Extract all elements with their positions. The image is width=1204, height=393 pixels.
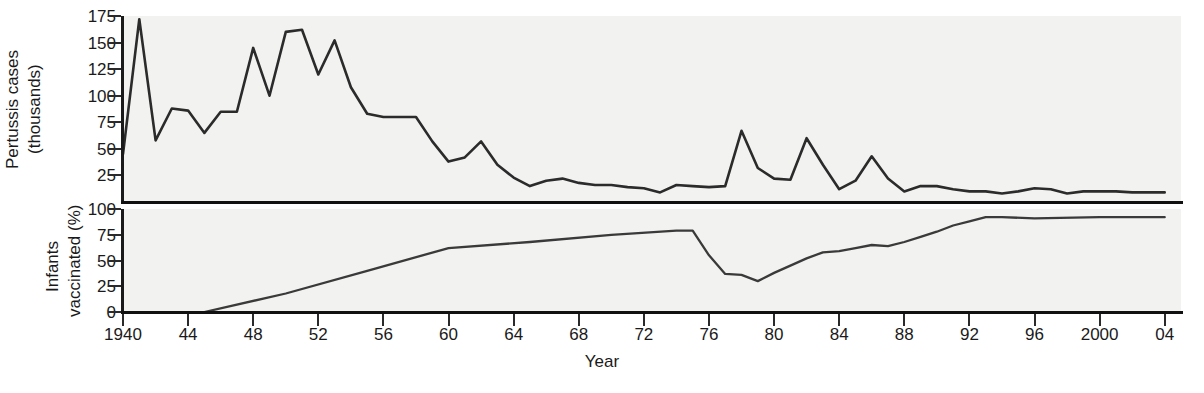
cases-y-tickmark-150	[108, 42, 121, 44]
cases-axis-title-line1: Pertussis cases	[4, 14, 22, 204]
x-tick-label-04: 04	[1155, 326, 1174, 343]
cases-axis-title-line2: (thousands)	[26, 14, 44, 204]
x-tick-label-44: 44	[179, 326, 198, 343]
infants-vaccinated-series-line	[204, 217, 1164, 312]
pertussis-vaccination-figure: Pertussis cases (thousands) Infants vacc…	[0, 0, 1204, 393]
x-tickmark-2000	[1099, 313, 1101, 326]
vaccination-y-tickmark-75	[108, 234, 121, 236]
x-tickmark-60	[448, 313, 450, 326]
cases-y-tick-labels: 175150125100755025	[58, 0, 116, 210]
x-tickmark-44	[187, 313, 189, 326]
x-tick-label-1940: 1940	[104, 326, 142, 343]
x-tickmark-76	[708, 313, 710, 326]
x-tick-label-96: 96	[1025, 326, 1044, 343]
vaccination-y-tickmark-100	[108, 208, 121, 210]
vaccination-y-tickmark-50	[108, 260, 121, 262]
vaccination-y-tickmark-0	[108, 311, 121, 313]
x-tickmark-68	[578, 313, 580, 326]
x-tick-label-92: 92	[960, 326, 979, 343]
infants-vaccinated-plot-area	[123, 209, 1181, 312]
x-tick-label-88: 88	[895, 326, 914, 343]
x-tickmark-88	[903, 313, 905, 326]
vaccination-y-tickmark-25	[108, 285, 121, 287]
pertussis-cases-plot-area	[123, 16, 1181, 202]
x-tick-label-64: 64	[504, 326, 523, 343]
x-tickmark-92	[968, 313, 970, 326]
x-axis-title: Year	[0, 352, 1204, 372]
x-tickmark-84	[838, 313, 840, 326]
x-tickmark-72	[643, 313, 645, 326]
x-tick-label-56: 56	[374, 326, 393, 343]
x-tickmark-52	[317, 313, 319, 326]
x-tickmark-56	[382, 313, 384, 326]
cases-y-tickmark-100	[108, 95, 121, 97]
x-tickmark-48	[252, 313, 254, 326]
x-tick-label-48: 48	[244, 326, 263, 343]
x-tick-label-80: 80	[765, 326, 784, 343]
x-tickmark-96	[1034, 313, 1036, 326]
x-tickmark-80	[773, 313, 775, 326]
vaccination-y-tick-labels: 1007550250	[58, 205, 116, 325]
x-tickmark-1940	[122, 313, 124, 326]
vaccination-axis-spine	[121, 209, 124, 314]
x-tick-label-76: 76	[700, 326, 719, 343]
x-tick-label-2000: 2000	[1081, 326, 1119, 343]
vaccination-axis-baseline	[121, 311, 1183, 314]
pertussis-cases-line-chart	[123, 16, 1181, 202]
x-tickmark-04	[1164, 313, 1166, 326]
x-tickmark-64	[513, 313, 515, 326]
x-tick-label-72: 72	[634, 326, 653, 343]
cases-y-tickmark-25	[108, 174, 121, 176]
cases-y-tickmark-175	[108, 15, 121, 17]
x-tick-label-52: 52	[309, 326, 328, 343]
cases-axis-baseline	[121, 201, 1183, 204]
x-tick-label-84: 84	[830, 326, 849, 343]
cases-y-tickmark-75	[108, 121, 121, 123]
cases-y-tickmark-125	[108, 68, 121, 70]
x-tick-label-60: 60	[439, 326, 458, 343]
infants-vaccinated-line-chart	[123, 209, 1181, 312]
x-tick-label-68: 68	[569, 326, 588, 343]
cases-y-tickmark-50	[108, 148, 121, 150]
cases-axis-spine	[121, 16, 124, 204]
pertussis-cases-series-line	[123, 19, 1165, 193]
